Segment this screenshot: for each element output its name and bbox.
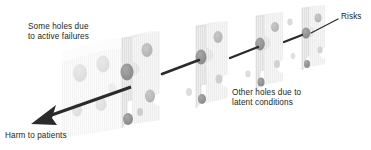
slice-1 [121, 31, 161, 128]
slice-4-hole-major [302, 27, 310, 38]
slice-4-hole [304, 60, 310, 68]
slice-1-hole [123, 113, 133, 125]
label-active-failures: Some holes due to active failures [28, 22, 89, 43]
slice-4-hole [317, 47, 322, 54]
arrow-segment-4 [284, 35, 302, 42]
slice-3-hole [274, 60, 280, 68]
slice-4-hole [291, 53, 296, 59]
slice-2-hole [198, 94, 206, 104]
ghost-hole [73, 64, 87, 82]
label-latent-conditions-line2: latent conditions [232, 98, 301, 108]
slice-4-hole [287, 19, 292, 26]
slice-1-hole-major [121, 64, 134, 81]
label-latent-conditions: Other holes due to latent conditions [232, 88, 301, 109]
slice-4-hole [315, 14, 322, 23]
label-risks: Risks [341, 12, 362, 22]
slice-2-hole [186, 88, 192, 96]
label-harm-to-patients: Harm to patients [5, 131, 67, 141]
swiss-cheese-diagram: Some holes due to active failures Other … [0, 0, 371, 150]
slice-2 [186, 21, 228, 108]
slice-2-hole [216, 75, 223, 84]
slice-1-hole [145, 90, 155, 103]
slice-3-hole [271, 22, 279, 32]
ghost-slice [62, 38, 122, 138]
slice-2-hole [214, 31, 223, 43]
label-active-failures-line2: to active failures [28, 32, 89, 42]
slice-3-hole [258, 78, 265, 87]
slice-1-hole [137, 108, 143, 116]
slice-3-hole [245, 71, 250, 78]
ghost-hole [97, 56, 110, 73]
arrow-segment-2 [162, 60, 199, 74]
arrow-segment-3 [230, 47, 258, 58]
slice-1-hole [142, 43, 153, 57]
label-latent-conditions-line1: Other holes due to [232, 88, 301, 98]
slice-2-hole-major [196, 50, 207, 65]
label-active-failures-line1: Some holes due [28, 22, 89, 32]
